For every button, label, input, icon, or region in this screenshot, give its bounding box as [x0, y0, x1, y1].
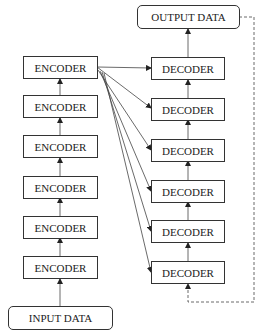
encoder-box-5: ENCODER: [23, 216, 98, 239]
arrow-encoder-to-decoder: [97, 67, 151, 68]
decoder-label: DECODER: [162, 63, 214, 75]
encoder-label: ENCODER: [35, 222, 87, 234]
encoder-box-1: ENCODER: [23, 56, 98, 79]
encoder-label: ENCODER: [35, 101, 87, 113]
input-data-label: INPUT DATA: [29, 312, 92, 324]
encoder-label: ENCODER: [35, 62, 87, 74]
decoder-box-4: DECODER: [151, 180, 225, 203]
input-data-box: INPUT DATA: [8, 306, 113, 330]
decoder-box-6: DECODER: [151, 261, 225, 284]
decoder-label: DECODER: [162, 226, 214, 238]
encoder-label: ENCODER: [35, 182, 87, 194]
diagram-connections: [0, 0, 263, 336]
output-data-box: OUTPUT DATA: [137, 5, 240, 29]
decoder-box-5: DECODER: [151, 220, 225, 243]
arrow-encoder-to-decoder: [97, 67, 151, 108]
encoder-label: ENCODER: [35, 141, 87, 153]
decoder-box-1: DECODER: [151, 57, 225, 80]
encoder-box-4: ENCODER: [23, 176, 98, 199]
encoder-box-2: ENCODER: [23, 95, 98, 118]
decoder-label: DECODER: [162, 186, 214, 198]
decoder-label: DECODER: [162, 267, 214, 279]
decoder-label: DECODER: [162, 104, 214, 116]
decoder-box-3: DECODER: [151, 139, 225, 162]
decoder-label: DECODER: [162, 145, 214, 157]
decoder-box-2: DECODER: [151, 98, 225, 121]
encoder-box-3: ENCODER: [23, 135, 98, 158]
output-data-label: OUTPUT DATA: [151, 11, 225, 23]
encoder-box-6: ENCODER: [23, 256, 98, 279]
encoder-label: ENCODER: [35, 262, 87, 274]
